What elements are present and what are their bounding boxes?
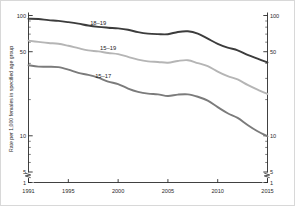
line-chart: 1155101050501001001991199520002005201020… (1, 1, 295, 206)
tick-labels: 1155101050501001001991199520002005201020… (17, 13, 279, 194)
y-tick-label-left-50: 50 (20, 49, 26, 55)
axis-ticks (29, 16, 268, 183)
x-tick-label-2000: 2000 (112, 188, 124, 194)
series-label-18-19: 18–19 (90, 20, 106, 26)
y-axis-title: Rate per 1,000 females in specified age … (8, 46, 14, 152)
y-tick-label-left-10: 10 (20, 133, 26, 139)
y-tick-label-right-5: 5 (270, 169, 273, 175)
x-tick-label-2010: 2010 (211, 188, 223, 194)
series-label-15-19: 15–19 (100, 45, 116, 51)
data-series (29, 19, 268, 137)
series-line-15-17 (29, 65, 268, 136)
axes (25, 13, 269, 183)
series-label-15-17: 15–17 (95, 73, 111, 79)
y-axis-break-left (25, 173, 30, 178)
y-axis-title-text: Rate per 1,000 females in specified age … (8, 46, 14, 152)
y-tick-label-left-100: 100 (17, 13, 26, 19)
y-tick-label-right-1: 1 (270, 180, 273, 186)
y-tick-label-right-50: 50 (270, 49, 276, 55)
x-tick-label-2005: 2005 (162, 188, 174, 194)
chart-figure: 1155101050501001001991199520002005201020… (0, 0, 295, 206)
y-tick-label-right-10: 10 (270, 133, 276, 139)
y-tick-label-right-100: 100 (270, 13, 279, 19)
x-tick-label-2015: 2015 (261, 188, 273, 194)
x-tick-label-1991: 1991 (22, 188, 34, 194)
x-tick-label-1995: 1995 (62, 188, 74, 194)
y-tick-label-left-1: 1 (23, 180, 26, 186)
y-axis-break-right (264, 173, 269, 178)
y-tick-label-left-5: 5 (23, 169, 26, 175)
series-line-18-19 (29, 19, 268, 63)
